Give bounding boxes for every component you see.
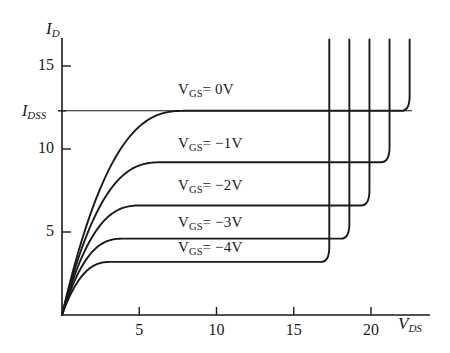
y-tick-label: 5 bbox=[30, 223, 54, 239]
curve-label-subscript: GS bbox=[189, 246, 202, 257]
x-axis-title: VDS bbox=[398, 315, 422, 332]
curve-label-prefix: V bbox=[178, 239, 189, 255]
curve-label-value: = 0V bbox=[202, 81, 233, 97]
axes-group bbox=[62, 38, 430, 315]
curve-label-prefix: V bbox=[178, 177, 189, 193]
curve-label-value: = −2V bbox=[202, 177, 242, 193]
curve-label-vgs-3: VGS= −3V bbox=[178, 215, 243, 230]
x-tick-label: 5 bbox=[119, 322, 159, 338]
curve-label-subscript: GS bbox=[189, 88, 202, 99]
x-tick-label: 10 bbox=[197, 322, 237, 338]
y-tick-label: 10 bbox=[30, 140, 54, 156]
curve-label-vgs-4: VGS= −4V bbox=[178, 240, 243, 255]
x-axis-title-sub: DS bbox=[408, 322, 421, 334]
x-tick-label: 15 bbox=[274, 322, 314, 338]
idss-label-sub: DSS bbox=[27, 109, 46, 121]
y-tick-label: 15 bbox=[30, 57, 54, 73]
curve-label-value: = −3V bbox=[202, 214, 242, 230]
y-axis-title: ID bbox=[46, 20, 60, 37]
curve-label-prefix: V bbox=[178, 135, 189, 151]
curve-label-subscript: GS bbox=[189, 142, 202, 153]
x-axis-title-main: V bbox=[398, 314, 408, 333]
idss-axis-label: IDSS bbox=[22, 103, 46, 119]
x-tick-label: 20 bbox=[351, 322, 391, 338]
curve-label-prefix: V bbox=[178, 81, 189, 97]
curve-label-vgs-1: VGS= −1V bbox=[178, 136, 243, 151]
curve-label-subscript: GS bbox=[189, 184, 202, 195]
y-axis-ticks bbox=[58, 66, 71, 232]
x-axis-ticks bbox=[139, 307, 371, 315]
y-axis-title-main: I bbox=[46, 19, 52, 38]
y-axis-title-sub: D bbox=[52, 27, 60, 39]
jfet-drain-characteristics-figure: ID VDS IDSS 510155101520 VGS= 0VVGS= −1V… bbox=[0, 0, 450, 353]
curve-label-subscript: GS bbox=[189, 221, 202, 232]
curve-label-vgs-2: VGS= −2V bbox=[178, 178, 243, 193]
curve-label-value: = −4V bbox=[202, 239, 242, 255]
curve-label-vgs-0: VGS= 0V bbox=[178, 82, 234, 97]
curve-label-prefix: V bbox=[178, 214, 189, 230]
curve-label-value: = −1V bbox=[202, 135, 242, 151]
